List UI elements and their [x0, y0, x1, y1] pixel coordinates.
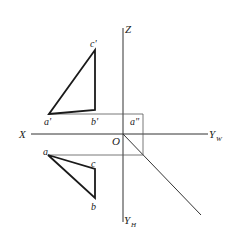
yh-axis-subscript: H	[130, 221, 137, 229]
diagram-canvas: Z X Y W Y H O c' a' b' a" a c b	[0, 0, 240, 247]
point-label-b-prime: b'	[91, 116, 99, 127]
point-label-a-prime: a'	[44, 116, 52, 127]
x-axis-label: X	[18, 128, 27, 140]
yw-axis-subscript: W	[216, 135, 223, 143]
top-view-triangle	[48, 155, 95, 198]
front-view-triangle	[49, 50, 95, 114]
point-label-c-prime: c'	[90, 38, 97, 49]
z-axis-label: Z	[125, 23, 132, 35]
projection-diagram: Z X Y W Y H O c' a' b' a" a c b	[0, 0, 240, 247]
origin-label: O	[112, 135, 120, 147]
point-label-a: a	[43, 146, 48, 157]
point-label-a-double-prime: a"	[130, 116, 140, 127]
point-label-c: c	[91, 158, 96, 169]
diagonal-45-line	[123, 134, 201, 215]
point-label-b: b	[91, 201, 96, 212]
